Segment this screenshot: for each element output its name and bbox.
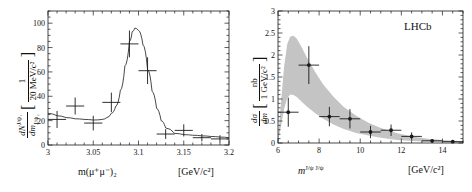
left-bracket-open: [ xyxy=(19,105,36,110)
y-tick-label: 2 xyxy=(256,51,275,60)
right-x-axis-title: mJ/ψ J/ψ xyxy=(298,164,324,176)
fit-curve xyxy=(48,28,229,138)
x-tick-label: 3.1 xyxy=(134,148,144,157)
left-x-axis-title: m(μ⁺μ⁻)₂ xyxy=(78,166,117,177)
marker xyxy=(410,135,414,139)
left-y-num-superscript: J/ψ₁ xyxy=(15,115,22,126)
left-x-axis-units: [GeV/c²] xyxy=(178,166,214,177)
panel-jpsi-pair-cross-section: dσ dm [ nb 1 GeV/c² ] mJ/ψ J/ψ [GeV/c²] … xyxy=(236,0,472,192)
y-tick-label: 20 xyxy=(26,116,45,125)
plot-group-left xyxy=(48,11,229,145)
data-point xyxy=(84,116,102,131)
panel-dimuon-mass-spectrum: dNJ/ψ₁ dmJ/ψ₂ [ 1 20 MeV/c² ] m(μ⁺μ⁻)₂ [… xyxy=(0,0,236,192)
right-x-axis-units: [GeV/c²] xyxy=(408,164,444,175)
x-tick-label: 3.2 xyxy=(224,148,234,157)
marker xyxy=(430,139,434,143)
marker xyxy=(451,140,455,144)
right-bracket-open: [ xyxy=(251,103,268,108)
left-bracket-close: ] xyxy=(19,52,36,57)
right-x-superscript: J/ψ J/ψ xyxy=(305,164,323,171)
data-point xyxy=(139,57,157,84)
marker xyxy=(286,110,290,114)
y-tick-label: 3 xyxy=(256,7,275,16)
y-tick-label: 100 xyxy=(26,19,45,28)
x-tick-label: 8 xyxy=(317,146,321,155)
marker xyxy=(327,115,331,119)
y-tick-label: 0 xyxy=(26,141,45,150)
y-tick-label: 1 xyxy=(256,95,275,104)
y-tick-label: 40 xyxy=(26,92,45,101)
x-tick-label: 6 xyxy=(276,146,280,155)
marker xyxy=(369,130,373,134)
x-tick-label: 12 xyxy=(397,146,405,155)
plot-frame xyxy=(48,11,229,145)
y-tick-label: 60 xyxy=(26,67,45,76)
y-tick-label: 2.5 xyxy=(256,29,275,38)
x-tick-label: 3 xyxy=(46,148,50,157)
y-tick-label: 0 xyxy=(256,139,275,148)
x-tick-label: 10 xyxy=(356,146,364,155)
x-tick-label: 3.05 xyxy=(86,148,100,157)
plot-group-right xyxy=(278,11,463,144)
x-tick-label: 3.15 xyxy=(177,148,191,157)
marker xyxy=(307,63,311,67)
y-tick-label: 80 xyxy=(26,43,45,52)
experiment-label-lhcb: LHCb xyxy=(404,20,432,32)
data-points xyxy=(48,30,229,142)
data-point xyxy=(66,97,84,114)
marker xyxy=(389,128,393,132)
y-tick-label: 1.5 xyxy=(256,73,275,82)
marker xyxy=(348,117,352,121)
physics-figure: dNJ/ψ₁ dmJ/ψ₂ [ 1 20 MeV/c² ] m(μ⁺μ⁻)₂ [… xyxy=(0,0,472,192)
data-point xyxy=(120,30,138,57)
data-point xyxy=(102,93,120,112)
y-tick-label: 0.5 xyxy=(256,117,275,126)
x-tick-label: 14 xyxy=(438,146,446,155)
